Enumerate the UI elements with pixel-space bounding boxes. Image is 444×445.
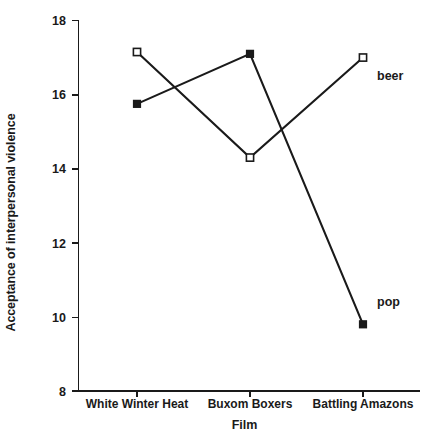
y-axis-tick-labels: 18 16 14 12 10 8 bbox=[52, 14, 66, 399]
data-point-pop-1 bbox=[247, 50, 254, 57]
x-axis-ticks bbox=[137, 391, 363, 397]
series-pop bbox=[134, 50, 367, 327]
series-label-beer: beer bbox=[377, 69, 404, 83]
x-category-label-1: White Winter Heat bbox=[86, 397, 189, 411]
x-category-label-2: Buxom Boxers bbox=[208, 397, 293, 411]
x-axis-title: Film bbox=[78, 418, 411, 432]
series-pop-line bbox=[137, 54, 363, 324]
series-pop-markers bbox=[134, 50, 367, 327]
line-chart: Acceptance of interpersonal violence 18 … bbox=[0, 0, 444, 445]
y-tick-label-14: 14 bbox=[52, 162, 66, 176]
y-tick-label-8: 8 bbox=[59, 385, 66, 399]
y-axis-ticks bbox=[72, 21, 79, 392]
data-point-pop-0 bbox=[134, 100, 141, 107]
x-category-label-3: Battling Amazons bbox=[313, 397, 414, 411]
series-beer bbox=[133, 48, 366, 161]
data-point-pop-2 bbox=[360, 321, 367, 328]
series-beer-line bbox=[137, 52, 363, 158]
x-axis-category-labels: White Winter Heat Buxom Boxers Battling … bbox=[86, 397, 414, 411]
y-tick-label-12: 12 bbox=[52, 237, 66, 251]
plot-area: 18 16 14 12 10 8 White Winter Heat Buxom… bbox=[0, 0, 444, 445]
series-beer-markers bbox=[133, 48, 366, 161]
data-point-beer-2 bbox=[359, 54, 366, 61]
y-tick-label-10: 10 bbox=[52, 311, 66, 325]
y-tick-label-16: 16 bbox=[52, 88, 66, 102]
data-point-beer-0 bbox=[133, 48, 140, 55]
series-label-pop: pop bbox=[377, 295, 400, 309]
y-tick-label-18: 18 bbox=[52, 14, 66, 28]
data-point-beer-1 bbox=[246, 154, 253, 161]
